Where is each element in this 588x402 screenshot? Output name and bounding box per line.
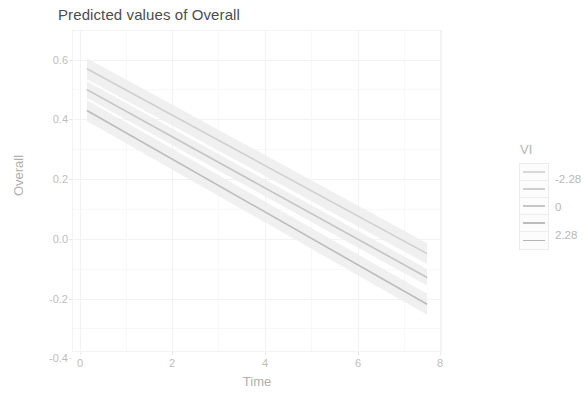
- legend-label-1: 0: [555, 201, 561, 213]
- legend-key-2: [520, 198, 548, 215]
- x-tickmark-4: [440, 352, 441, 355]
- y-tickmark-0: [69, 60, 72, 61]
- plot-panel: [72, 30, 442, 352]
- x-tick-label-1: 2: [152, 357, 192, 369]
- y-tick-label-3: 0.0: [24, 233, 68, 245]
- legend-key-1: [520, 181, 548, 198]
- y-tick-label-0: 0.6: [24, 54, 68, 66]
- prediction-line-2: [87, 111, 427, 305]
- legend-labels: -2.28 0 2.28: [555, 163, 588, 248]
- x-axis-tick-labels: 0 2 4 6 8: [72, 357, 442, 373]
- legend-key-line-0: [523, 171, 545, 173]
- y-tick-label-2: 0.2: [24, 173, 68, 185]
- x-axis-title: Time: [72, 374, 442, 389]
- legend-key-line-4: [523, 240, 545, 242]
- legend-colorbar: [519, 163, 549, 250]
- x-tick-label-2: 4: [245, 357, 285, 369]
- legend: VI -2.28 0 2.28: [519, 142, 588, 250]
- page-title: Predicted values of Overall: [58, 6, 240, 23]
- x-tick-label-4: 8: [420, 357, 460, 369]
- legend-label-2: 2.28: [555, 229, 577, 241]
- y-axis-title: Overall: [11, 136, 26, 216]
- legend-key-line-1: [523, 188, 545, 190]
- x-tickmark-1: [172, 352, 173, 355]
- prediction-line-1: [87, 90, 427, 278]
- legend-key-line-2: [523, 205, 545, 207]
- y-tickmark-3: [69, 239, 72, 240]
- x-tick-label-3: 6: [338, 357, 378, 369]
- y-axis-tickmarks: [66, 30, 72, 352]
- y-tick-label-4: -0.2: [24, 293, 68, 305]
- y-tick-label-1: 0.4: [24, 113, 68, 125]
- legend-body: -2.28 0 2.28: [519, 163, 588, 250]
- y-axis-tick-labels: 0.6 0.4 0.2 0.0 -0.2 -0.4: [18, 30, 68, 352]
- prediction-line-0: [87, 69, 427, 254]
- y-tickmark-4: [69, 299, 72, 300]
- x-tick-label-0: 0: [60, 357, 100, 369]
- legend-key-0: [520, 164, 548, 181]
- legend-key-line-3: [523, 222, 545, 224]
- y-tickmark-2: [69, 179, 72, 180]
- legend-key-3: [520, 215, 548, 232]
- x-tickmark-2: [265, 352, 266, 355]
- x-tickmark-0: [80, 352, 81, 355]
- x-tickmark-3: [358, 352, 359, 355]
- plot-series-layer: [72, 30, 442, 352]
- legend-label-0: -2.28: [555, 173, 581, 185]
- y-tickmark-1: [69, 119, 72, 120]
- legend-title: VI: [520, 142, 588, 157]
- legend-key-4: [520, 232, 548, 249]
